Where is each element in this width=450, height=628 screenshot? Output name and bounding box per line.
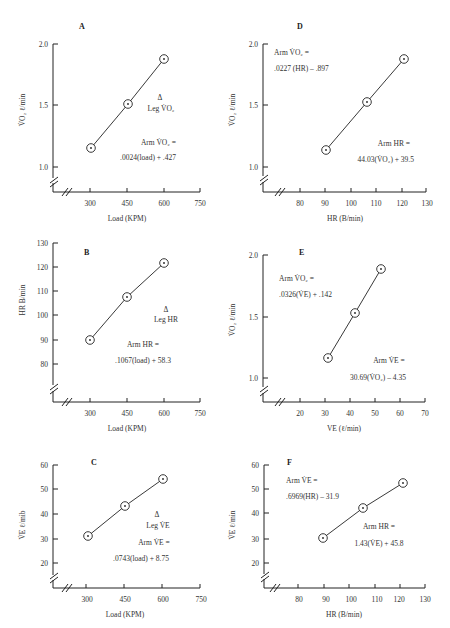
leg-triangle-marker: Δ — [158, 93, 163, 102]
x-tick-label: 750 — [194, 199, 206, 208]
y-tick-label: 2.0 — [249, 251, 259, 260]
equation-line-1: Arm V̇O₂ = — [141, 138, 176, 147]
y-tick-label: 30 — [252, 535, 260, 544]
y-tick-label: 100 — [37, 311, 49, 320]
x-tick-label: 300 — [84, 409, 96, 418]
y-tick-label: 60 — [41, 461, 49, 470]
x-tick-label: 750 — [195, 595, 207, 604]
x-tick-label: 600 — [157, 595, 169, 604]
x-tick-label: 450 — [119, 595, 131, 604]
y-axis-title: V̇E ℓ/min — [228, 510, 237, 539]
equation-line-3: Arm V̇E = — [373, 356, 405, 365]
data-marker — [359, 504, 368, 513]
y-tick-label: 1.0 — [39, 163, 49, 172]
leg-label: Leg V̇O₂ — [148, 104, 175, 113]
panel-d: D 2.0 1.5 1.0 80 90 100 110 120 130 V̇O₂… — [228, 22, 433, 223]
data-marker — [160, 259, 169, 268]
y-axis-title: V̇O₂ ℓ/min — [18, 93, 27, 126]
x-axis-title: Load (KPM) — [108, 214, 147, 223]
y-tick-label: 90 — [41, 336, 49, 345]
x-tick-label: 50 — [371, 409, 379, 418]
equation-line-4: 1.43(V̇E) + 45.8 — [354, 539, 403, 548]
panel-a: A 2.0 1.5 1.0 300 450 600 750 V̇O₂ ℓ/min… — [18, 22, 206, 223]
panel-c: C 60 50 40 30 20 300 450 600 750 V̇E ℓ/m… — [18, 458, 207, 619]
equation-line-2: .0326(V̇E) + .142 — [279, 290, 332, 299]
x-tick-label: 80 — [296, 199, 304, 208]
x-tick-label: 40 — [346, 409, 354, 418]
panel-letter-a: A — [79, 22, 85, 31]
y-tick-label: 2.0 — [249, 40, 259, 49]
panel-letter-c: C — [91, 458, 97, 467]
equation-line-2: .6969(HR) – 31.9 — [286, 492, 339, 501]
y-axis-title: V̇O₂ ℓ/min — [228, 303, 237, 336]
x-tick-label: 600 — [158, 409, 170, 418]
y-tick-label: 80 — [41, 360, 49, 369]
y-tick-label: 40 — [41, 510, 49, 519]
x-axis-title: Load (KPM) — [106, 610, 145, 619]
equation-line-3: Arm HR = — [363, 522, 395, 531]
x-tick-label: 60 — [396, 409, 404, 418]
x-axis-title: VE (ℓ/min) — [327, 424, 362, 433]
ticks — [53, 44, 200, 192]
y-tick-label: 50 — [41, 485, 49, 494]
x-tick-label: 120 — [393, 595, 405, 604]
x-tick-label: 300 — [84, 199, 96, 208]
data-marker — [400, 55, 409, 64]
y-tick-label: 30 — [41, 535, 49, 544]
panel-letter-d: D — [297, 22, 303, 31]
x-tick-label: 90 — [321, 199, 329, 208]
x-tick-label: 450 — [121, 199, 133, 208]
x-axis-title: HR (B/min) — [327, 214, 364, 223]
x-tick-label: 80 — [295, 595, 303, 604]
y-tick-label: 1.0 — [249, 374, 259, 383]
x-tick-label: 130 — [419, 595, 431, 604]
y-axis-title: V̇E ℓ/mib — [18, 510, 27, 539]
axis-break-y — [50, 573, 58, 583]
axis-break-y — [50, 177, 58, 187]
equation-line-2: .1067(load) + 58.3 — [115, 356, 171, 365]
x-tick-label: 100 — [345, 199, 357, 208]
equation-line-3: Arm HR = — [378, 139, 410, 148]
y-tick-label: 60 — [252, 461, 260, 470]
y-tick-label: 1.0 — [249, 163, 259, 172]
data-marker — [363, 98, 372, 107]
y-axis — [53, 44, 200, 192]
panel-f: F 60 50 40 30 20 80 90 100 110 120 130 V… — [228, 458, 431, 619]
axis-break-y — [260, 386, 268, 396]
y-tick-label: 130 — [37, 239, 49, 248]
equation-line-2: .0743(load) + 8.75 — [113, 554, 169, 563]
data-marker — [87, 144, 96, 153]
equation-line-4: 30.69(V̇O₂) – 4.35 — [350, 373, 406, 382]
x-tick-label: 110 — [372, 595, 383, 604]
equation-line-4: 44.03(V̇O₂) + 39.5 — [358, 155, 415, 164]
leg-triangle-marker: Δ — [164, 305, 169, 314]
y-tick-label: 20 — [41, 559, 49, 568]
y-tick-label: 1.5 — [249, 101, 259, 110]
data-marker — [351, 309, 360, 318]
data-marker — [121, 502, 130, 511]
data-marker — [86, 336, 95, 345]
y-tick-label: 120 — [37, 263, 49, 272]
x-tick-label: 300 — [81, 595, 93, 604]
x-tick-label: 120 — [396, 199, 408, 208]
axis-break-y — [260, 175, 268, 185]
figure-canvas: A 2.0 1.5 1.0 300 450 600 750 V̇O₂ ℓ/min… — [0, 0, 450, 628]
panel-e: E 2.0 1.5 1.0 20 30 40 50 60 70 V̇O₂ ℓ/m… — [228, 248, 429, 433]
y-tick-label: 2.0 — [39, 40, 49, 49]
data-marker — [159, 475, 168, 484]
y-tick-label: 50 — [252, 485, 260, 494]
data-marker — [124, 100, 133, 109]
data-marker — [84, 532, 93, 541]
data-marker — [319, 534, 328, 543]
panel-letter-f: F — [287, 458, 292, 467]
data-marker — [399, 479, 408, 488]
data-marker — [123, 293, 132, 302]
leg-triangle-marker: Δ — [155, 510, 160, 519]
axis-break-y — [50, 384, 58, 394]
equation-line-1: Arm V̇O₂ = — [279, 274, 314, 283]
panel-b: B 130 120 110 100 90 80 300 450 600 750 … — [18, 239, 206, 433]
panel-letter-e: E — [299, 248, 304, 257]
data-marker — [377, 265, 386, 274]
x-tick-label: 90 — [322, 595, 330, 604]
x-axis-title: Load (KPM) — [108, 424, 147, 433]
